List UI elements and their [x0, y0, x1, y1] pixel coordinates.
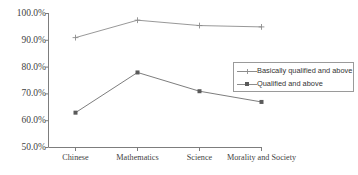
x-axis-ticks: [76, 148, 262, 152]
legend-item-qualified-and-above[interactable]: Qualified and above: [237, 78, 323, 90]
chart-legend: Basically qualified and above Qualified …: [233, 62, 354, 92]
legend-item-basically-qualified-and-above[interactable]: Basically qualified and above: [237, 65, 352, 77]
series-basically-qualified-and-above: [73, 17, 265, 40]
plus-marker-icon: [245, 69, 250, 74]
x-axis-tick-label: Morality and Society: [222, 153, 301, 162]
legend-swatch-plus-icon: [237, 66, 257, 76]
square-marker-icon: [245, 82, 249, 86]
x-axis-tick-label: Science: [169, 153, 230, 162]
line-chart: 100.0% 90.0% 80.0% 70.0% 60.0% 50.0%: [0, 0, 358, 175]
x-axis-tick-label: Mathematics: [107, 153, 168, 162]
legend-label: Basically qualified and above: [257, 66, 352, 76]
y-axis-ticks: [45, 14, 49, 148]
legend-swatch-square-icon: [237, 79, 257, 89]
x-axis-tick-label: Chinese: [45, 153, 106, 162]
legend-label: Qualified and above: [257, 79, 323, 89]
